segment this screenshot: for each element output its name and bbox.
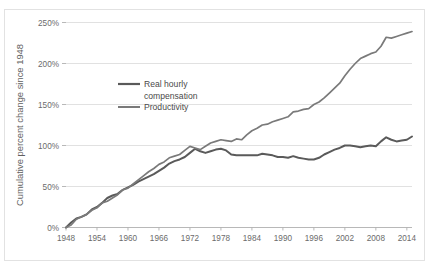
y-tick-label: 50%	[43, 183, 59, 192]
series-line-real-hourly-compensation	[66, 136, 412, 227]
y-tick-label: 100%	[38, 142, 59, 151]
axis-ticks	[62, 23, 407, 231]
y-axis-title-text: Cumulative percent change since 1948	[14, 44, 25, 206]
x-tick-label: 2008	[367, 234, 386, 243]
gridlines	[66, 23, 412, 228]
legend-label-real-hourly-compensation-line1: Real hourly	[144, 79, 188, 89]
x-tick-label: 1966	[150, 234, 169, 243]
x-tick-label: 1996	[305, 234, 324, 243]
y-tick-label: 150%	[38, 101, 59, 110]
data-series	[66, 32, 412, 228]
y-tick-label: 200%	[38, 60, 59, 69]
y-tick-label: 0%	[47, 224, 59, 233]
x-tick-label: 2002	[336, 234, 355, 243]
x-tick-label: 2014	[398, 234, 417, 243]
legend-label-real-hourly-compensation-line2: compensation	[144, 91, 198, 101]
x-tick-label: 1990	[274, 234, 293, 243]
x-tick-label: 1984	[243, 234, 262, 243]
series-line-productivity	[66, 32, 412, 228]
chart-legend: Real hourlycompensationProductivity	[118, 79, 198, 112]
x-tick-label: 1972	[181, 234, 200, 243]
x-tick-label: 1954	[88, 234, 107, 243]
x-tick-label: 1948	[57, 234, 76, 243]
legend-label-productivity: Productivity	[144, 102, 189, 112]
x-axis-tick-labels: 1948195419601966197219781984199019962002…	[57, 234, 416, 243]
y-tick-label: 250%	[38, 19, 59, 28]
x-tick-label: 1978	[212, 234, 231, 243]
y-axis-tick-labels: 0%50%100%150%200%250%	[38, 19, 59, 233]
x-tick-label: 1960	[119, 234, 138, 243]
chart-container: 0%50%100%150%200%250% 194819541960196619…	[0, 0, 430, 271]
y-axis-title: Cumulative percent change since 1948	[14, 44, 25, 206]
chart-plot-svg: 0%50%100%150%200%250% 194819541960196619…	[0, 0, 430, 271]
